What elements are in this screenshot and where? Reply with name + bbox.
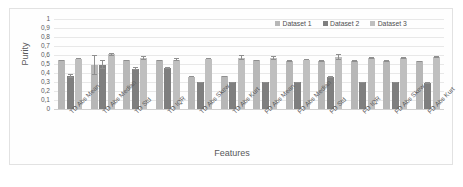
error-bar — [165, 67, 170, 69]
bar — [132, 69, 139, 110]
y-tick-label: 0,6 — [16, 52, 50, 59]
error-bar — [369, 57, 374, 59]
error-bar — [206, 58, 211, 59]
error-bar — [295, 82, 300, 83]
y-tick-label: 0,2 — [16, 88, 50, 95]
error-bar — [157, 60, 162, 61]
bar — [188, 77, 195, 109]
y-tick-label: 0,5 — [16, 61, 50, 68]
error-bar — [254, 60, 259, 61]
error-bar — [198, 82, 203, 83]
error-bar — [384, 61, 389, 62]
error-bar — [141, 56, 146, 61]
error-bar — [59, 60, 64, 61]
error-bar — [434, 56, 439, 58]
y-tick-label: 1 — [16, 16, 50, 23]
error-bar — [287, 61, 292, 62]
bar — [156, 60, 163, 109]
error-bar — [100, 60, 105, 69]
y-tick-label: 0,7 — [16, 43, 50, 50]
y-axis-tick-labels: 10,90,80,70,60,50,40,30,20,10 — [14, 19, 50, 109]
error-bar — [417, 61, 422, 62]
error-bar — [133, 67, 138, 70]
error-bar — [189, 76, 194, 77]
error-bar — [68, 74, 73, 78]
error-bar — [263, 82, 268, 83]
y-tick-label: 0,3 — [16, 79, 50, 86]
error-bar — [304, 59, 309, 60]
error-bar — [336, 54, 341, 59]
error-bar — [92, 55, 97, 75]
error-bar — [401, 57, 406, 59]
error-bar — [174, 58, 179, 61]
y-tick-label: 0,1 — [16, 97, 50, 104]
error-bar — [393, 82, 398, 83]
error-bar — [109, 53, 114, 56]
error-bar — [230, 82, 235, 83]
y-tick-label: 0,4 — [16, 70, 50, 77]
error-bar — [124, 60, 129, 61]
bar — [164, 68, 171, 109]
error-bar — [425, 83, 430, 84]
bar — [351, 61, 358, 109]
error-bar — [328, 76, 333, 78]
error-bar — [271, 56, 276, 60]
bar — [253, 60, 260, 109]
error-bar — [352, 61, 357, 62]
error-bar — [76, 58, 81, 59]
error-bar — [222, 76, 227, 77]
y-tick-label: 0,9 — [16, 25, 50, 32]
bar — [58, 60, 65, 109]
error-bar — [360, 82, 365, 83]
error-bar — [239, 55, 244, 60]
x-axis-title: Features — [10, 148, 454, 158]
chart-container: Dataset 1 Dataset 2 Dataset 3 Purity 10,… — [9, 8, 453, 165]
bar — [383, 61, 390, 109]
y-tick-label: 0 — [16, 106, 50, 113]
error-bar — [319, 61, 324, 62]
y-tick-label: 0,8 — [16, 34, 50, 41]
